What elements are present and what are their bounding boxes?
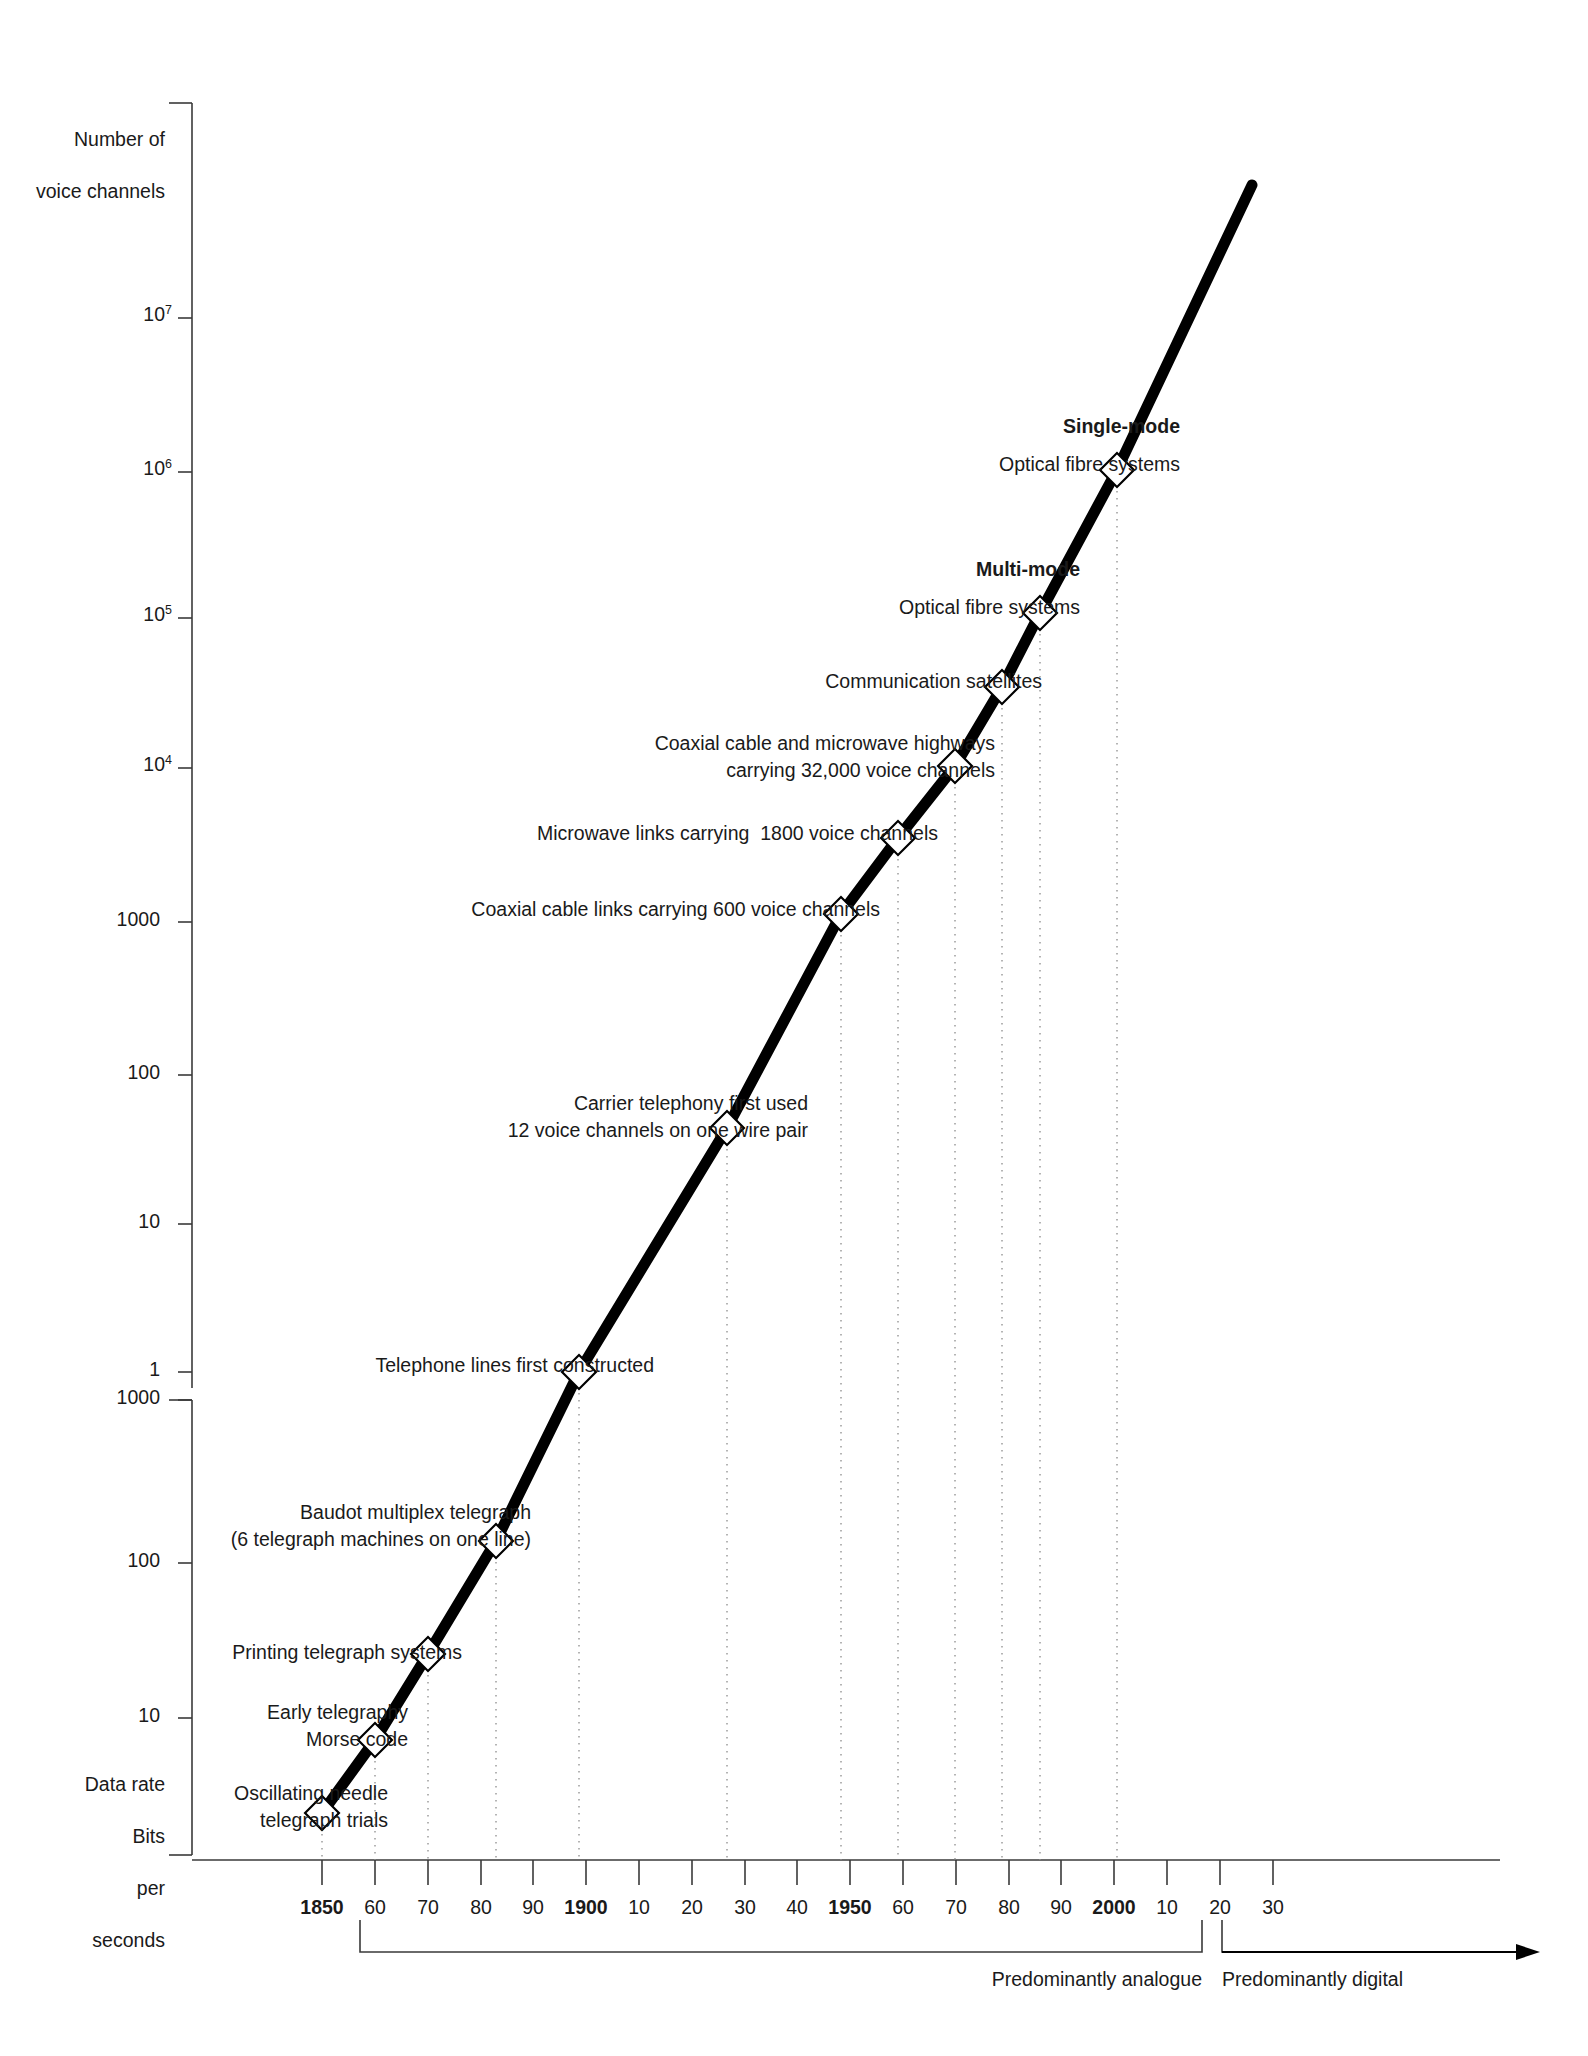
y-tick-label-100: 100 bbox=[50, 1061, 160, 1084]
annotation-coax-microwave-line2: carrying 32,000 voice channels bbox=[420, 757, 995, 784]
chart-figure: Number of voice channels Data rate Bits … bbox=[0, 0, 1588, 2056]
annotation-oscillating-needle-line2: telegraph trials bbox=[100, 1807, 388, 1834]
y-axis-primary-title: Number of voice channels bbox=[0, 100, 165, 230]
y-tick-label-1e6: 106 bbox=[60, 457, 172, 480]
era-label-analogue: Predominantly analogue bbox=[962, 1968, 1202, 1991]
annotation-carrier-telephony-line2: 12 voice channels on one wire pair bbox=[280, 1117, 808, 1144]
x-tick-label-2030: 30 bbox=[1233, 1896, 1313, 1919]
y-axis-primary-title-line1: Number of bbox=[74, 128, 165, 150]
annotation-coax-microwave-line1: Coaxial cable and microwave highways bbox=[420, 730, 995, 757]
era-bracket-analogue bbox=[360, 1920, 1202, 1952]
era-bracket-digital bbox=[1222, 1920, 1510, 1952]
annotation-microwave-links: Microwave links carrying 1800 voice chan… bbox=[330, 820, 938, 847]
annotation-communication-satellites: Communication satellites bbox=[540, 668, 1042, 695]
annotation-multi-mode-text: Optical fibre systems bbox=[600, 594, 1080, 621]
y-tick-exp-7: 7 bbox=[165, 303, 172, 317]
y-tick-exp-4: 4 bbox=[165, 753, 172, 767]
y-tick-exp-6: 6 bbox=[165, 457, 172, 471]
y-tick-label-1: 1 bbox=[50, 1358, 160, 1381]
y-tick-label-1e5: 105 bbox=[60, 603, 172, 626]
y-axis-primary-title-line2: voice channels bbox=[36, 180, 165, 202]
annotation-baudot-line2: (6 telegraph machines on one line) bbox=[140, 1526, 531, 1553]
y-tick-exp-5: 5 bbox=[165, 603, 172, 617]
y-tick-label-1e7: 107 bbox=[60, 303, 172, 326]
y-tick-label-datarate-1000: 1000 bbox=[50, 1386, 160, 1409]
timeline-arrow-head bbox=[1516, 1944, 1540, 1960]
y-axis-secondary-title-line3: per bbox=[137, 1877, 165, 1899]
annotation-printing-telegraph: Printing telegraph systems bbox=[120, 1639, 462, 1666]
era-label-digital: Predominantly digital bbox=[1222, 1968, 1502, 1991]
y-tick-label-1000: 1000 bbox=[50, 908, 160, 931]
annotation-early-telegraphy-line1: Early telegraphy bbox=[120, 1699, 408, 1726]
y-axis-secondary-title-line4: seconds bbox=[92, 1929, 165, 1951]
annotation-single-mode-text: Optical fibre systems bbox=[660, 451, 1180, 478]
annotation-oscillating-needle-line1: Oscillating needle bbox=[100, 1780, 388, 1807]
annotation-single-mode-heading: Single-mode bbox=[660, 413, 1180, 440]
annotation-telephone-lines: Telephone lines first constructed bbox=[180, 1352, 654, 1379]
y-tick-label-10: 10 bbox=[50, 1210, 160, 1233]
annotation-coax-cable-links: Coaxial cable links carrying 600 voice c… bbox=[290, 896, 880, 923]
annotation-baudot-line1: Baudot multiplex telegraph bbox=[140, 1499, 531, 1526]
annotation-carrier-telephony-line1: Carrier telephony first used bbox=[280, 1090, 808, 1117]
annotation-early-telegraphy-line2: Morse code bbox=[120, 1726, 408, 1753]
annotation-multi-mode-heading: Multi-mode bbox=[600, 556, 1080, 583]
y-tick-label-1e4: 104 bbox=[60, 753, 172, 776]
